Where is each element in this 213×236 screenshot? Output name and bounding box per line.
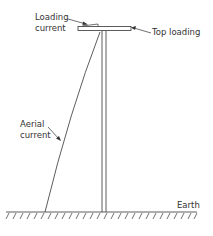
aerial-current-curve <box>45 32 100 212</box>
top-loading-label: Top loading <box>152 27 200 38</box>
top-loading-bar <box>78 27 131 31</box>
loading-current-label: Loading current <box>35 12 69 33</box>
earth-hatching <box>6 213 197 219</box>
earth-label: Earth <box>177 200 200 211</box>
aerial-current-label: Aerial current <box>20 119 51 140</box>
